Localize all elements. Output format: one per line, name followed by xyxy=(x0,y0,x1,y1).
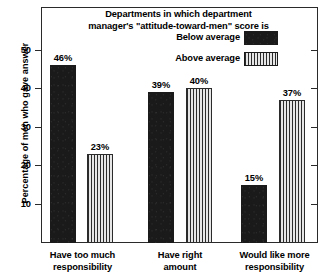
bar-above-average-1 xyxy=(186,88,212,243)
legend-item-below-average: Below average xyxy=(150,31,278,46)
legend-label-above-average: Above average xyxy=(175,53,240,63)
chart-title-line-1: Departments in which department xyxy=(46,9,311,21)
legend-item-above-average: Above average xyxy=(150,52,278,67)
x-category-label-2: Would like more responsibility xyxy=(222,250,327,273)
bar-value-below-average-2: 15% xyxy=(234,173,274,183)
y-tick-mark-30 xyxy=(35,127,42,128)
y-tick-mark-right-30 xyxy=(311,127,318,128)
chart-title: Departments in which department manager'… xyxy=(46,9,311,32)
x-category-label-1: Have right amount xyxy=(131,250,229,273)
x-category-label-0: Have too much responsibility xyxy=(30,250,135,273)
y-tick-mark-20 xyxy=(35,165,42,166)
y-tick-mark-right-40 xyxy=(311,88,318,89)
bar-below-average-2 xyxy=(241,185,267,243)
y-tick-mark-right-20 xyxy=(311,165,318,166)
bar-chart-figure: Departments in which department manager'… xyxy=(0,0,332,279)
bar-value-above-average-1: 40% xyxy=(179,76,219,86)
legend-swatch-below-average xyxy=(244,31,278,45)
y-tick-mark-10 xyxy=(35,204,42,205)
legend-swatch-above-average xyxy=(244,52,278,66)
bar-below-average-0 xyxy=(50,65,76,243)
bar-above-average-2 xyxy=(279,100,305,243)
x-category-label-0-line-1: Have too much xyxy=(30,250,135,262)
bar-below-average-1 xyxy=(148,92,174,243)
bar-value-above-average-0: 23% xyxy=(80,142,120,152)
x-category-label-2-line-1: Would like more xyxy=(222,250,327,262)
y-tick-label-10: 10 xyxy=(9,199,31,209)
x-category-label-1-line-1: Have right xyxy=(131,250,229,262)
y-tick-label-40: 40 xyxy=(9,83,31,93)
y-tick-label-50: 50 xyxy=(9,45,31,55)
y-tick-mark-40 xyxy=(35,88,42,89)
bar-value-below-average-0: 46% xyxy=(43,53,83,63)
bar-above-average-0 xyxy=(87,154,113,243)
bar-value-below-average-1: 39% xyxy=(141,80,181,90)
x-category-label-0-line-2: responsibility xyxy=(30,262,135,274)
legend-label-below-average: Below average xyxy=(176,32,240,42)
y-tick-mark-right-10 xyxy=(311,204,318,205)
y-tick-label-30: 30 xyxy=(9,122,31,132)
y-tick-mark-right-50 xyxy=(311,50,318,51)
y-tick-mark-50 xyxy=(35,50,42,51)
x-category-label-1-line-2: amount xyxy=(131,262,229,274)
bar-value-above-average-2: 37% xyxy=(272,88,312,98)
x-category-label-2-line-2: responsibility xyxy=(222,262,327,274)
y-tick-label-20: 20 xyxy=(9,160,31,170)
